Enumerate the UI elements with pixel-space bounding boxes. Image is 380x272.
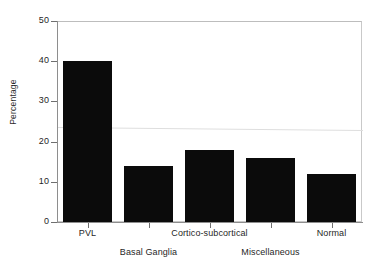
- bar: [307, 174, 356, 222]
- y-tick-mark: [51, 21, 57, 22]
- x-tick-label: Miscellaneous: [241, 247, 299, 257]
- y-tick-label: 10: [23, 176, 49, 186]
- y-axis-title: Percentage: [8, 62, 18, 142]
- x-tick-label: Cortico-subcortical: [171, 228, 247, 238]
- bar: [246, 158, 295, 222]
- bar: [124, 166, 173, 222]
- x-tick-label: Normal: [317, 228, 347, 238]
- y-tick-label: 30: [23, 95, 49, 105]
- y-tick-mark: [51, 222, 57, 223]
- y-tick-mark: [51, 61, 57, 62]
- bar: [185, 150, 234, 222]
- bar: [63, 61, 112, 222]
- y-tick-label: 40: [23, 55, 49, 65]
- y-axis-line: [57, 21, 58, 223]
- x-tick-mark: [149, 223, 150, 228]
- x-tick-mark: [271, 223, 272, 228]
- y-tick-label: 20: [23, 136, 49, 146]
- y-tick-label: 50: [23, 15, 49, 25]
- y-tick-mark: [51, 182, 57, 183]
- x-tick-label: Basal Ganglia: [120, 247, 177, 257]
- y-tick-mark: [51, 101, 57, 102]
- y-tick-mark: [51, 142, 57, 143]
- x-tick-label: PVL: [79, 228, 96, 238]
- bar-chart: Percentage 01020304050 PVLBasal GangliaC…: [0, 0, 380, 272]
- y-tick-label: 0: [23, 216, 49, 226]
